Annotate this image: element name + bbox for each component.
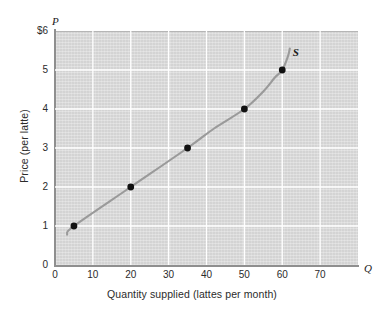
y-tick-label: $6 bbox=[20, 25, 48, 36]
chart-canvas bbox=[0, 0, 384, 310]
y-tick-label: 5 bbox=[20, 64, 48, 75]
x-axis-title: Quantity supplied (lattes per month) bbox=[0, 288, 384, 300]
supply-curve-figure: 012345$6 010203040506070 P Q S Quantity … bbox=[0, 0, 384, 310]
y-axis-title: Price (per latte) bbox=[18, 76, 30, 216]
x-tick-label: 40 bbox=[192, 269, 222, 280]
x-tick-label: 50 bbox=[229, 269, 259, 280]
x-tick-label: 20 bbox=[116, 269, 146, 280]
x-tick-label: 10 bbox=[78, 269, 108, 280]
data-point bbox=[241, 106, 248, 113]
supply-curve bbox=[67, 49, 290, 235]
x-tick-label: 0 bbox=[40, 269, 70, 280]
data-point bbox=[127, 184, 134, 191]
x-tick-label: 30 bbox=[154, 269, 184, 280]
y-axis-symbol-label: P bbox=[52, 15, 59, 27]
x-tick-label: 70 bbox=[305, 269, 335, 280]
data-point bbox=[184, 145, 191, 152]
supply-curve-label: S bbox=[293, 46, 299, 58]
x-tick-label: 60 bbox=[267, 269, 297, 280]
gridlines bbox=[55, 31, 358, 265]
y-tick-label: 1 bbox=[20, 220, 48, 231]
x-axis-symbol-label: Q bbox=[364, 262, 372, 274]
data-point bbox=[71, 223, 78, 230]
supply-curve-path bbox=[67, 49, 290, 235]
data-point bbox=[279, 67, 286, 74]
